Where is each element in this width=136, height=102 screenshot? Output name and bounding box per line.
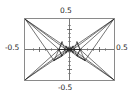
x-axis-left-tick-label: -0.5 <box>5 44 19 52</box>
x-axis-right-tick-label: 0.5 <box>116 44 128 52</box>
y-axis-top-tick-label: 0.5 <box>60 7 72 15</box>
plot-figure: 0.5 -0.5 -0.5 0.5 <box>0 0 136 102</box>
y-axis-bottom-tick-label: -0.5 <box>58 84 72 92</box>
